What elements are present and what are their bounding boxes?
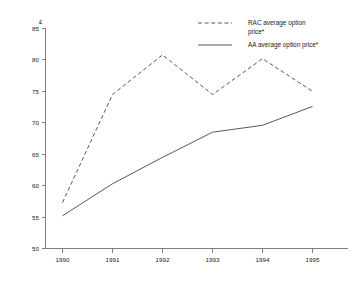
x-tick-label: 1993 bbox=[206, 256, 220, 263]
legend-label-rac-line1: RAC average option bbox=[248, 19, 306, 27]
x-tick-label: 1990 bbox=[56, 256, 70, 263]
legend-label-aa: AA average option price* bbox=[248, 41, 319, 49]
y-axis-unit-label: £ bbox=[39, 18, 43, 25]
x-axis-ticks: 1990 1991 1992 1993 1994 1995 bbox=[56, 249, 320, 264]
y-tick-label: 80 bbox=[32, 56, 39, 63]
series-line-rac bbox=[63, 55, 313, 203]
chart-canvas: £ 85 80 75 70 65 60 55 50 1990 1991 bbox=[0, 0, 354, 281]
y-axis-ticks: 85 80 75 70 65 60 55 50 bbox=[32, 25, 45, 252]
legend-label-rac-line2: price* bbox=[248, 28, 265, 36]
x-tick-label: 1992 bbox=[156, 256, 170, 263]
y-tick-label: 70 bbox=[32, 119, 39, 126]
x-tick-label: 1991 bbox=[106, 256, 120, 263]
y-tick-label: 50 bbox=[32, 245, 39, 252]
y-tick-label: 75 bbox=[32, 88, 39, 95]
y-tick-label: 85 bbox=[32, 25, 39, 32]
x-tick-label: 1995 bbox=[306, 256, 320, 263]
series-line-aa bbox=[63, 106, 313, 215]
x-tick-label: 1994 bbox=[256, 256, 270, 263]
y-tick-label: 60 bbox=[32, 182, 39, 189]
y-tick-label: 55 bbox=[32, 214, 39, 221]
chart-legend: RAC average option price* AA average opt… bbox=[198, 19, 319, 49]
y-tick-label: 65 bbox=[32, 151, 39, 158]
line-chart: £ 85 80 75 70 65 60 55 50 1990 1991 bbox=[0, 0, 354, 281]
